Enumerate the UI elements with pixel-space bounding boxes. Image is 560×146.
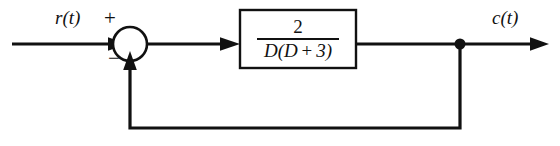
summing-junction-minus-sign: − <box>108 48 120 69</box>
transfer-function-block-outline <box>240 10 356 68</box>
controlled-output-label: c(t) <box>492 8 518 27</box>
block-diagram-graphics <box>0 0 560 146</box>
block-diagram-canvas: r(t) + − 2 D(D + 3) c(t) <box>0 0 560 146</box>
reference-input-label: r(t) <box>55 8 80 27</box>
summing-junction-plus-sign: + <box>104 8 116 29</box>
controlled-output-line <box>356 37 549 51</box>
error-signal-line <box>147 37 240 51</box>
